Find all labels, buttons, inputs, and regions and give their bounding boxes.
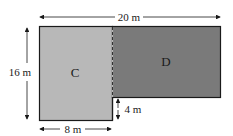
label-total-width: 20 m <box>118 11 141 23</box>
label-region-d: D <box>161 54 170 69</box>
label-total-height: 16 m <box>9 66 32 78</box>
label-region-c: C <box>71 65 80 80</box>
area-diagram: 20 m 16 m 8 m 4 m C D <box>0 0 233 136</box>
label-step-height: 4 m <box>125 103 142 115</box>
label-bottom-width: 8 m <box>65 123 82 135</box>
